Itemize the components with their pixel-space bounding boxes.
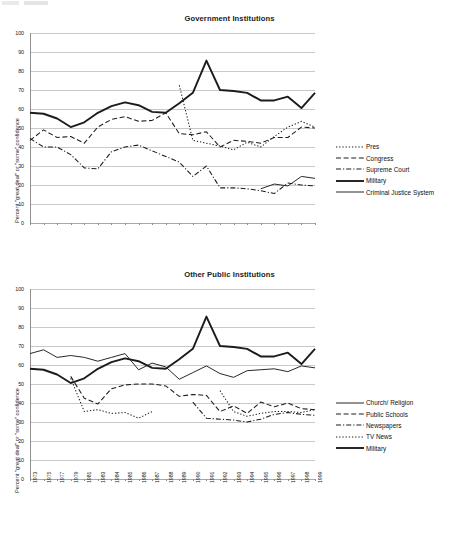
- series-layer: [0, 23, 459, 229]
- series-line: [71, 378, 152, 418]
- series-line: [220, 391, 315, 417]
- series-line: [30, 138, 315, 193]
- series-line: [193, 402, 315, 422]
- series-line: [71, 376, 315, 413]
- plot-area-government: Percent "great deal" or "some" confidenc…: [0, 23, 459, 253]
- chart-other-public-institutions: Other Public Institutions Percent "great…: [0, 266, 459, 536]
- scan-artifact: [2, 1, 66, 5]
- series-line: [179, 85, 315, 150]
- plot-area-other-public: Percent "great deal" or "some" confidenc…: [0, 279, 459, 527]
- series-line: [30, 61, 315, 128]
- series-line: [30, 113, 315, 147]
- chart-title-government: Government Institutions: [0, 8, 459, 23]
- chart-title-other-public: Other Public Institutions: [0, 266, 459, 279]
- chart-government-institutions: Government Institutions Percent "great d…: [0, 8, 459, 266]
- series-layer: [0, 279, 459, 485]
